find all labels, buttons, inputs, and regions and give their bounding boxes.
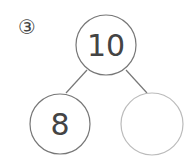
- part-left-circle: 8: [30, 94, 90, 154]
- number-bond-diagram: ③ 10 8: [0, 0, 191, 166]
- problem-number-label: ③: [18, 15, 36, 39]
- part-right-circle[interactable]: [121, 93, 183, 155]
- whole-value: 10: [87, 28, 125, 63]
- connector-line-left: [66, 70, 87, 93]
- connector-line-right: [126, 70, 147, 93]
- part-left-value: 8: [50, 107, 69, 142]
- whole-circle: 10: [76, 15, 136, 75]
